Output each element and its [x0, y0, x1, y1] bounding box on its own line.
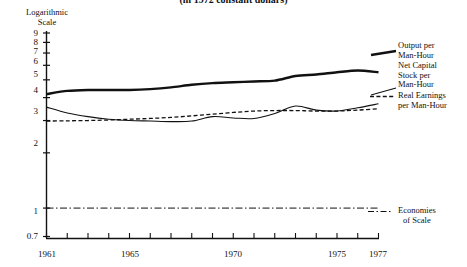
series-line-net-capital-stock [47, 104, 379, 122]
legend-swatch-output [371, 51, 396, 55]
chart-container: (in 1972 constant dollars) Logarithmic S… [0, 0, 467, 267]
series-line-output-per-man-hour [47, 71, 379, 95]
legend-swatch-capital [371, 88, 396, 95]
x-axis-ticks [47, 233, 379, 239]
plot-area [0, 0, 467, 267]
